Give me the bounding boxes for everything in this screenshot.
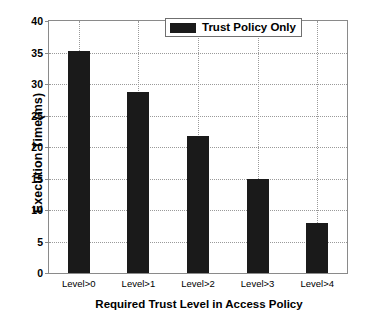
chart-legend: Trust Policy Only [165,18,302,37]
x-axis-title: Required Trust Level in Access Policy [48,298,350,310]
y-tick-label: 20 [31,141,43,153]
bar-level-2 [187,136,209,273]
y-tick-label: 0 [37,267,43,279]
plot-area: 0510152025303540Level>0Level>1Level>2Lev… [48,20,348,274]
y-tick-label: 10 [31,204,43,216]
y-tick-mark [45,210,49,211]
chart-figure: Execution Time(ms) 0510152025303540Level… [0,0,367,325]
y-tick-label: 25 [31,110,43,122]
legend-label-trust-policy-only: Trust Policy Only [202,22,296,34]
y-tick-label: 35 [31,47,43,59]
y-tick-label: 40 [31,15,43,27]
y-tick-mark [45,242,49,243]
y-tick-label: 15 [31,173,43,185]
y-tick-label: 30 [31,78,43,90]
x-tick-label: Level>4 [300,278,334,289]
bar-level-4 [306,223,328,273]
y-tick-mark [45,84,49,85]
y-tick-mark [45,21,49,22]
x-tick-label: Level>0 [62,278,96,289]
y-tick-mark [45,147,49,148]
bar-level-3 [247,179,269,274]
y-tick-label: 5 [37,236,43,248]
legend-swatch-trust-policy-only [170,23,196,33]
bar-level-1 [127,92,149,273]
y-tick-mark [45,273,49,274]
x-tick-label: Level>2 [181,278,215,289]
y-tick-mark [45,53,49,54]
x-tick-label: Level>1 [122,278,156,289]
y-tick-mark [45,179,49,180]
y-tick-mark [45,116,49,117]
x-tick-label: Level>3 [241,278,275,289]
bar-level-0 [68,51,90,273]
